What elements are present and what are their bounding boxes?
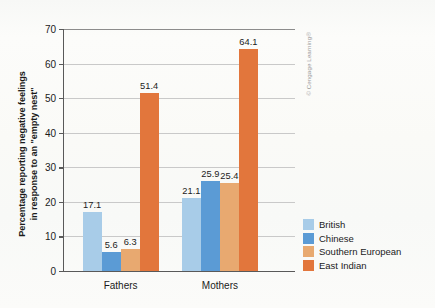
y-axis-title-line-1: Percentage reporting negative feelings bbox=[16, 71, 28, 237]
bar-rect bbox=[102, 252, 121, 271]
y-axis-tick bbox=[59, 98, 64, 99]
bar-fathers-east-indian[interactable]: 51.4 bbox=[140, 29, 159, 271]
y-axis-tick bbox=[59, 271, 64, 272]
bar-mothers-british[interactable]: 21.1 bbox=[182, 29, 201, 271]
bar-rect bbox=[140, 93, 159, 271]
y-axis-tick bbox=[59, 29, 64, 30]
x-axis-label-mothers: Mothers bbox=[202, 280, 238, 291]
y-axis-tick bbox=[59, 167, 64, 168]
legend-item-british[interactable]: British bbox=[303, 219, 401, 230]
bar-rect bbox=[220, 183, 239, 271]
bar-fathers-british[interactable]: 17.1 bbox=[83, 29, 102, 271]
bar-value-label: 17.1 bbox=[83, 200, 101, 210]
y-axis-title-line-2: in response to an "empty nest" bbox=[28, 71, 40, 237]
y-axis-tick-label: 40 bbox=[45, 127, 56, 138]
bar-rect bbox=[182, 198, 201, 271]
bar-fathers-chinese[interactable]: 5.6 bbox=[102, 29, 121, 271]
legend-swatch bbox=[303, 246, 314, 257]
y-axis-tick-label: 30 bbox=[45, 162, 56, 173]
y-axis-tick-label: 0 bbox=[50, 266, 56, 277]
copyright-credit: © Cengage Learning® bbox=[301, 28, 315, 100]
bars-layer: 17.15.66.351.421.125.925.464.1 bbox=[64, 29, 295, 271]
legend-label: East Indian bbox=[319, 260, 367, 271]
bar-mothers-chinese[interactable]: 25.9 bbox=[201, 29, 220, 271]
legend-label: Southern European bbox=[319, 246, 401, 257]
copyright-credit-text: © Cengage Learning® bbox=[305, 32, 312, 96]
bar-value-label: 6.3 bbox=[124, 237, 137, 247]
y-axis-tick-label: 70 bbox=[45, 24, 56, 35]
legend-item-east-indian[interactable]: East Indian bbox=[303, 260, 401, 271]
bar-value-label: 25.4 bbox=[220, 171, 238, 181]
x-axis-label-fathers: Fathers bbox=[104, 280, 138, 291]
y-axis-tick bbox=[59, 133, 64, 134]
y-axis-tick bbox=[59, 236, 64, 237]
legend: BritishChineseSouthern EuropeanEast Indi… bbox=[303, 219, 401, 271]
legend-swatch bbox=[303, 233, 314, 244]
bar-value-label: 25.9 bbox=[201, 169, 219, 179]
y-axis-tick-label: 50 bbox=[45, 93, 56, 104]
legend-item-chinese[interactable]: Chinese bbox=[303, 233, 401, 244]
legend-label: Chinese bbox=[319, 233, 354, 244]
bar-rect bbox=[121, 249, 140, 271]
bar-mothers-southern-european[interactable]: 25.4 bbox=[220, 29, 239, 271]
bar-fathers-southern-european[interactable]: 6.3 bbox=[121, 29, 140, 271]
bar-value-label: 51.4 bbox=[140, 81, 158, 91]
y-axis-tick-label: 60 bbox=[45, 58, 56, 69]
legend-swatch bbox=[303, 219, 314, 230]
bar-value-label: 5.6 bbox=[105, 240, 118, 250]
bar-rect bbox=[201, 181, 220, 271]
plot-area: 17.15.66.351.421.125.925.464.1 010203040… bbox=[63, 29, 295, 272]
y-axis-tick-label: 20 bbox=[45, 196, 56, 207]
legend-item-southern-european[interactable]: Southern European bbox=[303, 246, 401, 257]
bar-value-label: 64.1 bbox=[239, 37, 257, 47]
bar-rect bbox=[83, 212, 102, 271]
bar-mothers-east-indian[interactable]: 64.1 bbox=[239, 29, 258, 271]
y-axis-tick bbox=[59, 202, 64, 203]
chart-page: Percentage reporting negative feelings i… bbox=[0, 0, 435, 308]
bar-value-label: 21.1 bbox=[182, 186, 200, 196]
legend-swatch bbox=[303, 260, 314, 271]
y-axis-tick bbox=[59, 64, 64, 65]
y-axis-title: Percentage reporting negative feelings i… bbox=[8, 32, 48, 276]
bar-group-mothers: 21.125.925.464.1 bbox=[182, 29, 258, 271]
y-axis-tick-label: 10 bbox=[45, 231, 56, 242]
bar-rect bbox=[239, 49, 258, 271]
legend-label: British bbox=[319, 219, 345, 230]
bar-group-fathers: 17.15.66.351.4 bbox=[83, 29, 159, 271]
